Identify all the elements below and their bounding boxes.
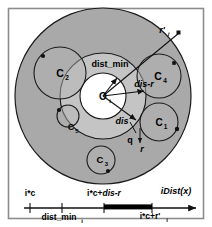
axis-label-left: i*c <box>25 188 36 198</box>
cluster-label-C1: C <box>155 117 162 128</box>
cluster-C1: C 1 <box>140 103 179 141</box>
cluster-center-dot <box>106 169 110 173</box>
r-label: r <box>140 144 144 154</box>
axis-range-bar <box>104 204 152 209</box>
cluster-label-C5: C <box>68 122 75 132</box>
r-prime-label: r' <box>159 25 166 35</box>
diagram-svg: C 2 C 4 C 1 C 5 C 3 <box>0 0 212 227</box>
dist-min-label: dist_min <box>91 59 128 69</box>
cluster-center-dot <box>172 61 176 65</box>
axis-label-icr: i*c+r' <box>140 211 161 221</box>
axis-label-mid-top: i*c+dis-r <box>87 188 121 198</box>
cluster-center-dot <box>175 127 179 131</box>
cluster-label-C4: C <box>154 70 162 82</box>
r-prime-endpoint-dot <box>177 31 181 35</box>
cluster-label-C1-sub: 1 <box>164 123 168 130</box>
cluster-center-dot <box>57 108 61 112</box>
q-label: q <box>127 135 133 145</box>
cluster-label-C4-sub: 4 <box>163 77 167 84</box>
axis-label-right: iDist(x) <box>161 186 192 196</box>
axis-label-mid-top-plain: i*c+ <box>87 188 102 198</box>
cluster-label-C2: C <box>56 67 64 79</box>
cluster-C3: C 3 <box>87 146 115 174</box>
figure-root: C 2 C 4 C 1 C 5 C 3 <box>0 0 212 227</box>
cluster-label-C2-sub: 2 <box>65 74 69 81</box>
axis-label-dist-min: dist_min <box>42 212 77 222</box>
cluster-C2: C 2 <box>34 47 86 99</box>
cluster-label-C3: C <box>97 154 104 165</box>
center-label-O: O <box>99 91 107 102</box>
dis-minus-r-label: dis-r <box>134 79 154 89</box>
axis-label-mid-top-italic: dis-r <box>102 188 121 198</box>
cluster-center-dot <box>41 54 45 58</box>
dis-label: dis <box>115 116 128 126</box>
